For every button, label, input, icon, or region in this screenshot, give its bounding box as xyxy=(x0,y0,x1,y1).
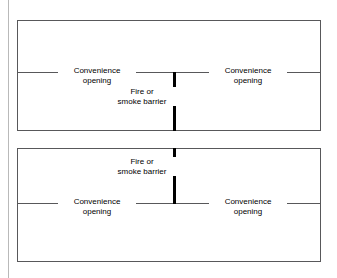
label-line-2: opening xyxy=(61,76,133,86)
label-line-1: Convenience xyxy=(61,66,133,76)
top-right-convenience-opening-label: Convenience opening xyxy=(209,66,287,85)
label-line-2: opening xyxy=(61,207,133,217)
diagram-page: Convenience opening Convenience opening … xyxy=(0,0,337,278)
bottom-fire-smoke-barrier-label: Fire or smoke barrier xyxy=(104,157,180,176)
label-line-2: opening xyxy=(212,207,284,217)
bottom-right-convenience-opening-label: Convenience opening xyxy=(209,197,287,216)
page-margin-rule xyxy=(8,0,9,278)
label-line-2: smoke barrier xyxy=(107,97,177,107)
top-fire-smoke-barrier-label: Fire or smoke barrier xyxy=(104,87,180,106)
bottom-diagram-frame: Fire or smoke barrier Convenience openin… xyxy=(17,148,321,262)
label-line-1: Fire or xyxy=(107,87,177,97)
label-line-2: opening xyxy=(212,76,284,86)
label-line-1: Convenience xyxy=(61,197,133,207)
top-diagram-frame: Convenience opening Convenience opening … xyxy=(17,20,321,131)
label-line-2: smoke barrier xyxy=(107,167,177,177)
label-line-1: Convenience xyxy=(212,66,284,76)
top-left-convenience-opening-label: Convenience opening xyxy=(58,66,136,85)
label-line-1: Fire or xyxy=(107,157,177,167)
label-line-1: Convenience xyxy=(212,197,284,207)
bottom-left-convenience-opening-label: Convenience opening xyxy=(58,197,136,216)
